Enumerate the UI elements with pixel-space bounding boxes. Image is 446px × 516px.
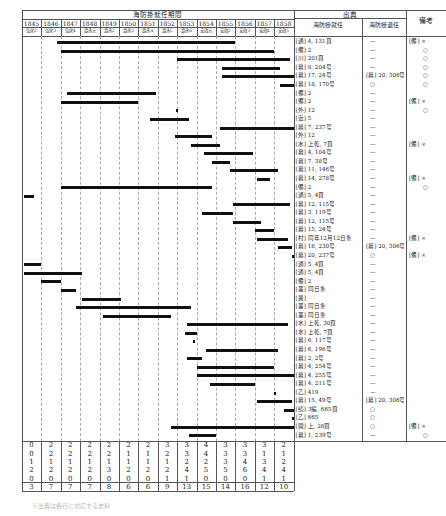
tenure-bar — [193, 340, 195, 343]
remark: ○ — [423, 82, 428, 88]
source-appointed: [幕] 7, 38号 — [296, 159, 328, 165]
tenure-bar — [257, 238, 288, 241]
year-1845: 1845 — [22, 21, 41, 27]
summary-count: 2 — [61, 442, 80, 449]
year-1848: 1848 — [80, 21, 99, 27]
era-label: 嘉永2 — [100, 29, 119, 34]
tenure-bar — [61, 50, 274, 53]
source-retired: ○ — [370, 82, 375, 88]
tenure-bar — [150, 118, 189, 121]
source-retired: — — [370, 150, 376, 156]
source-retired: — — [370, 65, 376, 71]
summary-count: 1 — [119, 451, 138, 458]
remarks-left-border — [406, 10, 407, 441]
remarks-bottom-border — [406, 441, 446, 442]
summary-count: 4 — [255, 467, 274, 474]
tenure-bar — [206, 349, 278, 352]
source-appointed: [乙] 419 — [296, 390, 319, 396]
summary-count: 2 — [41, 467, 60, 474]
summary-count: 2 — [177, 459, 196, 466]
summary-count: 2 — [61, 451, 80, 458]
source-retired: — — [370, 330, 376, 336]
source-retired: — — [370, 364, 376, 370]
source-appointed: [開] 上, 28頁 — [296, 424, 331, 430]
source-retired: — — [370, 236, 376, 242]
tenure-bar — [220, 127, 294, 130]
total-count: 10 — [274, 484, 293, 491]
era-label: 安政3 — [235, 29, 254, 34]
summary-count: 2 — [61, 467, 80, 474]
remark: [備] × — [409, 176, 426, 182]
summary-count: 1 — [138, 451, 157, 458]
source-appointed: [幕] 17, 24号 — [296, 73, 332, 79]
summary-count: 4 — [235, 459, 254, 466]
summary-count: 1 — [138, 459, 157, 466]
source-appointed: [通] 5, 4頁 — [296, 270, 325, 276]
summary-count: 3 — [158, 442, 177, 449]
tenure-bar — [280, 84, 294, 87]
source-retired: [幕] 20, 306号 — [366, 73, 406, 79]
year-1850: 1850 — [119, 21, 138, 27]
source-retired: — — [370, 270, 376, 276]
source-retired: — — [370, 193, 376, 199]
summary-count: 2 — [41, 442, 60, 449]
tenure-bar — [292, 417, 294, 420]
tenure-bar — [187, 323, 288, 326]
source-retired: [幕] 20, 306号 — [366, 398, 406, 404]
tenure-bar — [189, 434, 216, 437]
tenure-bar — [24, 195, 34, 198]
summary-count: 1 — [255, 451, 274, 458]
source-retired: — — [370, 373, 376, 379]
remark: ○ — [423, 65, 428, 71]
summary-count: 3 — [100, 467, 119, 474]
era-label: 安政5 — [274, 29, 293, 34]
source-appointed: [備] 2 — [296, 99, 312, 105]
total-count: 9 — [158, 484, 177, 491]
tenure-bar — [171, 426, 293, 429]
gantt-title: 海防掛就任期間 — [22, 12, 294, 19]
summary-count: 1 — [158, 459, 177, 466]
summary-count: 0 — [22, 442, 41, 449]
summary-count: 2 — [100, 451, 119, 458]
tenure-bar — [204, 152, 253, 155]
source-retired: — — [370, 313, 376, 319]
tenure-bar — [278, 246, 292, 249]
tenure-bar — [222, 67, 280, 70]
source-retired: — — [370, 133, 376, 139]
caption-text: ※出典は各行に対応する史料 — [32, 503, 110, 509]
era-label: 嘉永元 — [80, 29, 99, 34]
source-retired: — — [370, 116, 376, 122]
source-retired: — — [370, 159, 376, 165]
source-retired: — — [370, 108, 376, 114]
source-appointed: [幕] 4, 104号 — [296, 150, 332, 156]
source-retired: — — [370, 296, 376, 302]
tenure-bar — [41, 280, 60, 283]
source-appointed: [叢] 同日条 — [296, 304, 326, 310]
remark: ○ — [423, 56, 428, 62]
tenure-bar — [187, 357, 203, 360]
source-appointed: [幕] 8, 204号 — [296, 65, 332, 71]
source-appointed: [幕] 20, 237号 — [296, 253, 336, 259]
source-appointed: [幕] 6, 117号 — [296, 338, 332, 344]
summary-count: 3 — [216, 442, 235, 449]
summary-count: 4 — [197, 451, 216, 458]
tenure-bar — [61, 289, 77, 292]
tenure-bar — [176, 109, 178, 112]
tenure-bar — [24, 272, 82, 275]
year-gridline — [235, 36, 236, 441]
tenure-bar — [103, 315, 171, 318]
source-appointed: [幕] 12, 115号 — [296, 202, 336, 208]
source-retired: — — [370, 185, 376, 191]
total-count: 12 — [255, 484, 274, 491]
header-bottom-border — [22, 36, 446, 37]
source-retired: — — [370, 91, 376, 97]
source-retired: — — [370, 56, 376, 62]
tenure-bar — [197, 374, 294, 377]
summary-count: 1 — [274, 451, 293, 458]
tenure-bar — [222, 75, 294, 78]
summary-count: 2 — [119, 442, 138, 449]
tenure-bar — [230, 169, 279, 172]
summary-count: 1 — [100, 459, 119, 466]
summary-count: 2 — [158, 467, 177, 474]
tenure-bar — [197, 366, 275, 369]
